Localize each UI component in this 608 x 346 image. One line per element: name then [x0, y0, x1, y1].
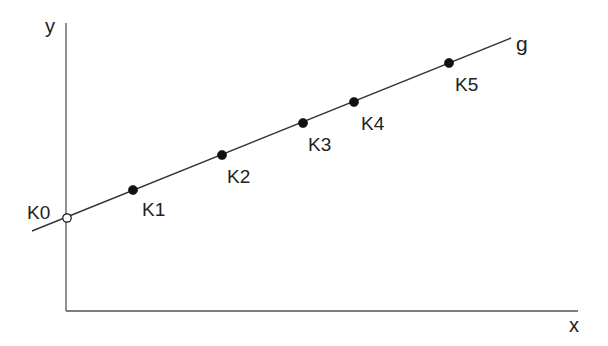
point-k1	[128, 185, 137, 194]
point-k2	[217, 150, 226, 159]
point-label-k1: K1	[142, 200, 165, 219]
diagram-canvas: y x g K0K1K2K3K4K5	[0, 0, 608, 346]
point-label-k2: K2	[227, 167, 250, 186]
point-k3	[298, 118, 307, 127]
y-axis-label: y	[45, 16, 55, 36]
point-label-k5: K5	[455, 75, 478, 94]
x-axis-label: x	[569, 315, 579, 335]
point-label-k0: K0	[27, 203, 50, 222]
line-g	[32, 38, 511, 231]
line-g-label: g	[516, 33, 528, 54]
point-k5	[444, 58, 453, 67]
point-label-k3: K3	[308, 135, 331, 154]
point-k4	[349, 97, 358, 106]
point-k0	[63, 214, 71, 222]
point-label-k4: K4	[361, 114, 384, 133]
